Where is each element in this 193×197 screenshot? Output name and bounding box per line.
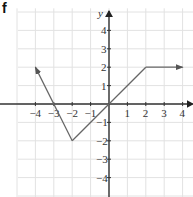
x-tick-label: 2 [143,107,149,119]
x-tick-label: −1 [85,107,97,119]
x-tick-label: −4 [29,107,41,119]
y-tick-label: −4 [96,172,108,184]
x-tick-label: 3 [161,107,167,119]
coordinate-graph: −4−3−2−112344321−1−2−3−4xy [0,0,193,197]
y-tick-label: −2 [96,135,108,147]
y-tick-label: −3 [96,153,108,165]
y-axis-label: y [97,7,103,19]
grid-lines [17,8,193,197]
y-tick-label: 3 [101,43,107,55]
y-tick-label: 2 [101,61,107,73]
y-tick-label: 1 [101,80,107,92]
y-tick-label: −1 [96,116,108,128]
x-tick-label: 1 [124,107,129,119]
x-tick-label: 4 [180,107,186,119]
x-tick-label: −2 [66,107,78,119]
y-tick-label: 4 [101,24,107,36]
